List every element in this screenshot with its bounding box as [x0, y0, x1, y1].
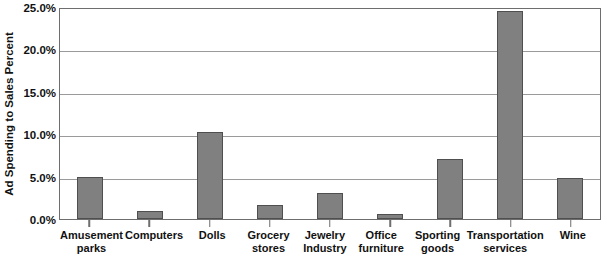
tick-mark	[209, 220, 211, 227]
x-tick-label-line: Grocery	[241, 229, 295, 242]
x-tick-label: Grocerystores	[240, 229, 296, 265]
bar[interactable]	[197, 132, 223, 219]
tick-slot	[481, 220, 541, 227]
x-tick-label-line: Wine	[546, 229, 600, 242]
x-axis-tick-labels: AmusementparksComputersDollsGrocerystore…	[59, 229, 601, 265]
x-tick-label-line: Dolls	[185, 229, 239, 242]
x-tick-label-line: parks	[60, 242, 123, 255]
x-tick-label: Computers	[124, 229, 184, 265]
tick-mark	[269, 220, 271, 227]
x-tick-label-line: Transportation	[467, 229, 544, 242]
x-tick-label-line: Jewelry	[298, 229, 352, 242]
x-tick-label-line: Computers	[125, 229, 183, 242]
x-tick-label: Dolls	[184, 229, 240, 265]
x-tick-label-line: Office	[354, 229, 408, 242]
x-tick-label: Amusementparks	[59, 229, 124, 265]
bar[interactable]	[557, 178, 583, 219]
x-tick-label-line: Sporting	[410, 229, 464, 242]
tick-mark	[389, 220, 391, 227]
x-tick-label: Sportinggoods	[409, 229, 465, 265]
tick-mark	[510, 220, 512, 227]
x-tick-label-line: goods	[410, 242, 464, 255]
tick-slot	[420, 220, 480, 227]
tick-mark	[329, 220, 331, 227]
bar-slot	[420, 9, 480, 219]
tick-mark	[450, 220, 452, 227]
x-tick-label-line: Industry	[298, 242, 352, 255]
tick-mark	[88, 220, 90, 227]
bar-chart: Ad Spending to Sales Percent 25.0%20.0%1…	[0, 0, 607, 267]
tick-slot	[360, 220, 420, 227]
bar[interactable]	[137, 211, 163, 219]
tick-mark	[570, 220, 572, 227]
y-axis-tick-labels: 25.0%20.0%15.0%10.0%5.0%0.0%	[16, 0, 56, 228]
y-tick-label: 0.0%	[16, 214, 56, 226]
y-tick-label: 10.0%	[16, 129, 56, 141]
bars-container	[60, 9, 600, 219]
x-tick-label: Officefurniture	[353, 229, 409, 265]
tick-slot	[300, 220, 360, 227]
y-tick-label: 25.0%	[16, 2, 56, 14]
bar-slot	[240, 9, 300, 219]
bar[interactable]	[497, 11, 523, 219]
tick-slot	[541, 220, 601, 227]
tick-mark	[149, 220, 151, 227]
bar[interactable]	[377, 214, 403, 219]
x-tick-label-line: services	[467, 242, 544, 255]
tick-slot	[59, 220, 119, 227]
y-tick-label: 5.0%	[16, 172, 56, 184]
tick-slot	[119, 220, 179, 227]
bar[interactable]	[437, 159, 463, 219]
x-tick-label: Wine	[545, 229, 601, 265]
bar-slot	[60, 9, 120, 219]
x-tick-label-line: stores	[241, 242, 295, 255]
y-tick-label: 15.0%	[16, 87, 56, 99]
bar-slot	[360, 9, 420, 219]
tick-slot	[179, 220, 239, 227]
bar[interactable]	[317, 193, 343, 219]
bar-slot	[480, 9, 540, 219]
x-axis-ticks	[59, 220, 601, 227]
bar[interactable]	[257, 205, 283, 219]
y-axis-title-text: Ad Spending to Sales Percent	[3, 32, 15, 196]
plot-area	[59, 8, 601, 220]
x-tick-label-line: furniture	[354, 242, 408, 255]
bar-slot	[180, 9, 240, 219]
bar-slot	[120, 9, 180, 219]
x-tick-label-line: Amusement	[60, 229, 123, 242]
x-tick-label: Transportationservices	[466, 229, 545, 265]
x-tick-label: JewelryIndustry	[297, 229, 353, 265]
y-tick-label: 20.0%	[16, 44, 56, 56]
bar-slot	[540, 9, 600, 219]
bar[interactable]	[77, 177, 103, 219]
bar-slot	[300, 9, 360, 219]
tick-slot	[240, 220, 300, 227]
